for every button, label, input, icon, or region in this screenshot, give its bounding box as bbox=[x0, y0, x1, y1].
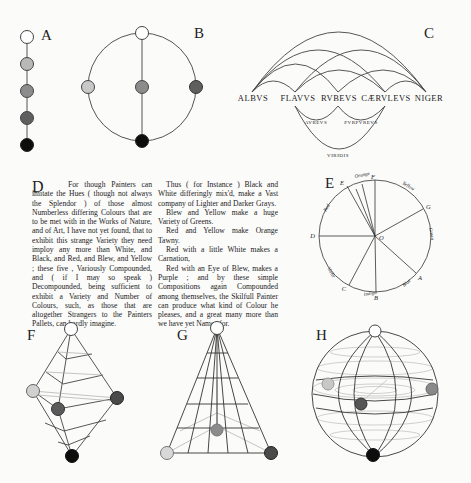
color-triangle-grid bbox=[150, 310, 300, 483]
paragraph: Thus ( for Instance ) Black and White di… bbox=[158, 180, 278, 208]
color-node-front bbox=[52, 403, 65, 416]
panel-h: H bbox=[300, 310, 471, 483]
svg-text:A: A bbox=[417, 274, 422, 281]
label-albus: ALBVS bbox=[238, 93, 268, 103]
label-caeruleus: CÆRVLEVS bbox=[361, 93, 411, 103]
color-node-top bbox=[136, 27, 149, 40]
color-node-right bbox=[111, 392, 124, 405]
panel-d: D For though Painters can imitate the Hu… bbox=[0, 170, 320, 310]
svg-text:E: E bbox=[339, 179, 344, 186]
color-node bbox=[21, 85, 34, 98]
text-column-1: For though Painters can imitate the Hues… bbox=[32, 180, 152, 329]
grayscale-line-diagram bbox=[0, 0, 80, 160]
svg-text:F: F bbox=[370, 173, 376, 180]
label-rubeus: RVBEVS bbox=[321, 93, 357, 103]
panel-g: G bbox=[150, 310, 300, 483]
color-node bbox=[21, 139, 34, 152]
color-node bbox=[21, 112, 34, 125]
panel-b: B bbox=[80, 0, 240, 160]
color-sphere bbox=[300, 310, 471, 483]
paragraph: Red and Yellow make Orange Tawny. bbox=[158, 226, 278, 245]
color-node-left bbox=[27, 385, 40, 398]
color-node-bottom bbox=[136, 135, 149, 148]
svg-text:O: O bbox=[379, 234, 384, 241]
color-node-bottom bbox=[367, 449, 380, 462]
newton-color-wheel: F E G A B C D O Orange Yellow Green Blue… bbox=[320, 170, 471, 310]
color-node-right bbox=[265, 447, 278, 460]
color-node-left bbox=[322, 378, 334, 390]
color-node-bottom bbox=[66, 450, 79, 463]
color-node-top bbox=[369, 325, 381, 337]
text-column-2: Thus ( for Instance ) Black and White di… bbox=[158, 180, 278, 329]
color-bipyramid bbox=[0, 310, 150, 483]
color-node-right bbox=[190, 81, 203, 94]
sector-label: Green bbox=[428, 227, 435, 240]
label-viridis: VIRIDIS bbox=[327, 153, 349, 158]
color-node bbox=[21, 31, 34, 44]
color-node-top bbox=[211, 322, 224, 335]
color-node bbox=[21, 58, 34, 71]
sector-label: Red bbox=[322, 203, 331, 214]
color-node-left bbox=[161, 447, 174, 460]
label-purpureus: PVRPVREVS bbox=[344, 120, 377, 125]
label-niger: NIGER bbox=[415, 93, 443, 103]
color-node-top bbox=[65, 323, 78, 336]
svg-text:G: G bbox=[426, 203, 431, 210]
panel-c: C ALBVS FLAVVS RVBEVS CÆRVLEVS NIGER AVR… bbox=[240, 0, 471, 170]
svg-text:D: D bbox=[309, 232, 315, 239]
color-node-front bbox=[355, 398, 367, 410]
color-node-center bbox=[136, 81, 149, 94]
paragraph: Red with a little White makes a Carnatio… bbox=[158, 245, 278, 264]
sector-label: Orange bbox=[354, 171, 371, 179]
panel-f: F bbox=[0, 310, 150, 483]
color-circle-diagram bbox=[80, 0, 240, 160]
svg-text:C: C bbox=[342, 285, 347, 292]
paragraph: For though Painters can imitate the Hues… bbox=[32, 180, 152, 329]
color-node-center bbox=[211, 424, 223, 436]
color-arcs-diagram: ALBVS FLAVVS RVBEVS CÆRVLEVS NIGER AVREV… bbox=[240, 0, 471, 170]
panel-e: E F E G A B C D O Orange Yellow Gree bbox=[320, 170, 471, 310]
paragraph: Blew and Yellow make a huge Variety of G… bbox=[158, 208, 278, 227]
sector-label: Yellow bbox=[402, 181, 416, 192]
panel-a: A bbox=[0, 0, 80, 160]
color-node-left bbox=[82, 81, 95, 94]
sector-label: Violet bbox=[326, 266, 336, 279]
color-node-right bbox=[426, 383, 438, 395]
label-flavus: FLAVVS bbox=[281, 93, 316, 103]
label-aureus: AVREVS bbox=[305, 120, 327, 125]
